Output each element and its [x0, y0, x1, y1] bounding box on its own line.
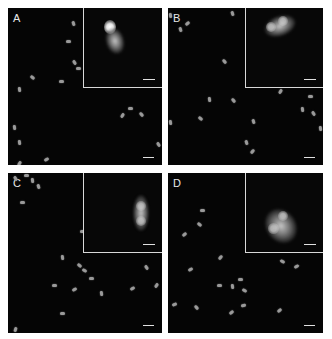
spot-glow: [133, 195, 149, 231]
spot-glow: [258, 203, 303, 250]
inset-scale-bar: [304, 79, 316, 81]
fluorescent-spot: [217, 284, 222, 287]
panel-label: B: [173, 12, 180, 24]
fluorescent-spot: [89, 277, 94, 280]
fluorescent-spot: [71, 21, 76, 27]
microscopy-panel-c: C: [8, 173, 162, 333]
fluorescent-spot: [231, 98, 237, 104]
fluorescent-spot: [66, 40, 71, 43]
panel-scale-bar: [304, 157, 315, 159]
fluorescent-spot: [156, 142, 161, 148]
fluorescent-spot: [61, 255, 65, 260]
spot-glow: [262, 11, 299, 41]
fluorescent-spot: [172, 302, 178, 307]
fluorescent-spot: [18, 140, 22, 145]
zoom-inset: [83, 8, 162, 88]
fluorescent-spot: [24, 174, 29, 177]
fluorescent-spot: [194, 305, 200, 311]
fluorescent-spot: [241, 304, 246, 308]
fluorescent-spot: [185, 21, 191, 27]
fluorescent-spot: [278, 89, 283, 95]
fluorescent-spot: [13, 125, 17, 130]
fluorescent-spot: [231, 284, 235, 289]
fluorescent-spot: [20, 201, 25, 204]
fluorescent-spot: [294, 264, 300, 269]
fluorescent-spot: [311, 111, 316, 117]
fluorescent-spot: [188, 267, 194, 272]
fluorescent-spot: [308, 95, 313, 98]
inset-scale-bar: [304, 244, 316, 246]
microscopy-panel-b: B: [168, 8, 323, 165]
microscopy-panel-d: D: [168, 173, 323, 333]
panel-scale-bar: [143, 325, 154, 327]
fluorescent-spot: [197, 222, 203, 228]
fluorescent-spot: [169, 13, 173, 18]
fluorescent-spot: [251, 119, 256, 125]
inset-scale-bar: [143, 244, 155, 246]
fluorescent-spot: [44, 157, 50, 162]
fluorescent-spot: [244, 140, 249, 146]
microscopy-panel-a: A: [8, 8, 162, 165]
fluorescent-spot: [280, 259, 286, 264]
fluorescent-spot: [154, 283, 159, 289]
fluorescent-spot: [30, 75, 36, 81]
fluorescent-spot: [238, 278, 243, 281]
fluorescent-spot: [182, 232, 188, 238]
fluorescent-spot: [139, 112, 145, 118]
fluorescent-spot: [200, 209, 205, 212]
fluorescent-spot: [59, 80, 64, 83]
zoom-inset: [245, 173, 323, 253]
fluorescent-spot: [52, 284, 57, 287]
fluorescent-spot: [242, 288, 248, 293]
spot-glow: [103, 26, 127, 56]
fluorescent-spot: [31, 178, 35, 183]
fluorescent-spot: [178, 27, 183, 33]
fluorescent-spot: [229, 310, 235, 316]
zoom-inset: [245, 8, 323, 88]
zoom-inset: [83, 173, 162, 253]
fluorescent-spot: [130, 286, 136, 291]
fluorescent-spot: [17, 161, 22, 165]
fluorescent-spot: [198, 116, 204, 122]
fluorescent-spot: [60, 312, 65, 315]
fluorescent-spot: [250, 149, 256, 155]
fluorescent-spot: [13, 327, 18, 333]
fluorescent-spot: [100, 291, 104, 296]
panel-scale-bar: [304, 325, 315, 327]
fluorescent-spot: [301, 107, 305, 112]
fluorescent-spot: [144, 265, 149, 271]
fluorescent-spot: [319, 126, 323, 131]
fluorescent-spot: [72, 60, 77, 66]
fluorescent-spot: [120, 113, 125, 119]
panel-scale-bar: [143, 157, 154, 159]
fluorescent-spot: [77, 263, 83, 269]
fluorescent-spot: [277, 308, 283, 314]
fluorescent-spot: [82, 268, 88, 273]
fluorescent-spot: [169, 120, 173, 125]
fluorescent-spot: [18, 87, 22, 92]
fluorescent-spot: [208, 97, 212, 102]
fluorescent-spot: [230, 11, 235, 17]
panel-label: A: [13, 12, 20, 24]
fluorescent-spot: [76, 67, 81, 70]
fluorescent-spot: [72, 287, 78, 292]
fluorescent-spot: [218, 255, 224, 261]
inset-scale-bar: [143, 79, 155, 81]
panel-label: D: [173, 177, 181, 189]
fluorescent-spot: [222, 59, 228, 65]
fluorescent-spot: [36, 184, 41, 190]
fluorescent-spot: [128, 107, 133, 110]
